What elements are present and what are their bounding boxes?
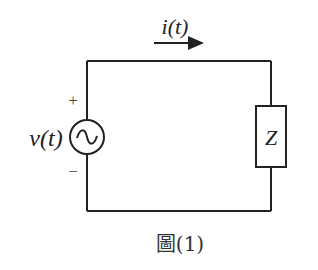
arrow-head-icon [188,36,204,50]
impedance: Z [256,106,286,167]
sine-wave-icon [77,130,97,143]
source-label: v(t) [29,125,62,151]
circuit-wires [87,61,271,211]
plus-sign: + [68,91,78,110]
impedance-label: Z [265,125,278,150]
figure-caption: 圖(1) [156,232,204,256]
minus-sign: − [68,162,78,181]
current-label: i(t) [162,14,189,39]
circuit-diagram: + − v(t) i(t) Z 圖(1) [0,0,318,270]
ac-source [70,120,104,154]
